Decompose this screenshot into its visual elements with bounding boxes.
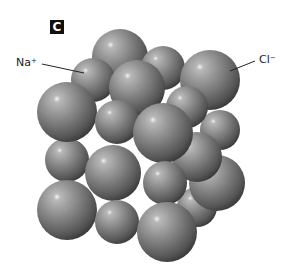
nacl-lattice-diagram	[0, 0, 292, 276]
sodium-ion-sphere	[95, 200, 139, 244]
sodium-charge: +	[31, 57, 37, 65]
chloride-ion-sphere	[133, 103, 193, 163]
chloride-charge: −	[270, 54, 276, 62]
sodium-ion-label: Na+	[16, 57, 37, 69]
sodium-ion-sphere	[95, 100, 139, 144]
chloride-ion-sphere	[85, 145, 141, 201]
sodium-ion-sphere	[143, 161, 187, 205]
sodium-label-text: Na	[16, 56, 31, 69]
sodium-ion-sphere	[45, 138, 89, 182]
ion-spheres	[37, 29, 245, 262]
chloride-ion-label: Cl−	[259, 54, 276, 66]
chloride-ion-sphere	[37, 82, 97, 142]
panel-label: C	[50, 20, 64, 34]
chloride-label-text: Cl	[259, 53, 270, 66]
chloride-ion-sphere	[37, 180, 97, 240]
chloride-ion-sphere	[137, 202, 197, 262]
